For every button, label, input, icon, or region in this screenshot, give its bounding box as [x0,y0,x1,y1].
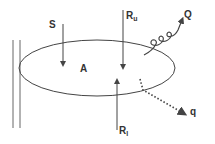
label-q: q [190,106,196,117]
q-heat-spiral [144,20,182,55]
label-ru: Ru [126,10,138,22]
label-s: S [49,19,56,30]
label-rl: Rl [119,125,128,137]
label-Q: Q [184,9,192,20]
wall-lines [13,40,20,128]
label-a: A [80,63,87,74]
energy-balance-diagram: S A Ru Rl Q q [0,0,215,144]
body-ellipse [19,40,175,96]
